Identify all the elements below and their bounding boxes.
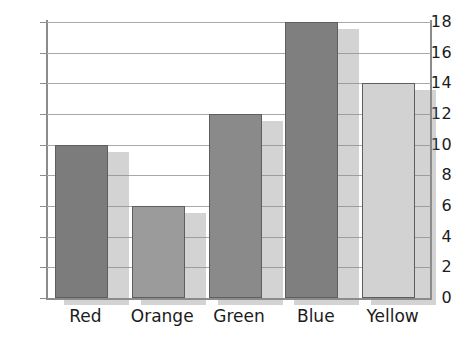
plot-area bbox=[47, 22, 431, 298]
x-tick-label-red: Red bbox=[47, 308, 124, 325]
gridline bbox=[47, 53, 431, 54]
bar-green[interactable] bbox=[209, 114, 262, 298]
x-tick-label-yellow: Yellow bbox=[354, 308, 431, 325]
bar-fill bbox=[362, 83, 415, 298]
bar-yellow[interactable] bbox=[362, 83, 415, 298]
bar-chart-figure: 024681012141618 RedOrangeGreenBlueYellow bbox=[0, 0, 452, 347]
bar-red[interactable] bbox=[55, 145, 108, 298]
gridline bbox=[47, 22, 431, 23]
bar-fill bbox=[285, 22, 338, 298]
bar-fill bbox=[209, 114, 262, 298]
bar-fill bbox=[55, 145, 108, 298]
bar-blue[interactable] bbox=[285, 22, 338, 298]
x-tick-label-green: Green bbox=[201, 308, 278, 325]
x-tick-label-blue: Blue bbox=[277, 308, 354, 325]
x-tick-label-orange: Orange bbox=[124, 308, 201, 325]
bar-orange[interactable] bbox=[132, 206, 185, 298]
bar-fill bbox=[132, 206, 185, 298]
